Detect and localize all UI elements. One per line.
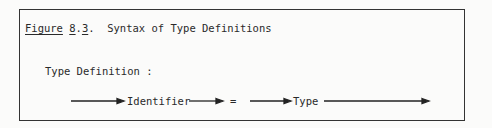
syntax-diagram-row: Identifier = Type: [0, 94, 492, 108]
caption-title: Syntax of Type Definitions: [95, 22, 272, 34]
nonterminal-identifier: Identifier: [127, 94, 190, 108]
nonterminal-type: Type: [293, 94, 318, 108]
terminal-equals: =: [230, 94, 236, 108]
caption-label: Figure: [25, 22, 63, 34]
right-arrow-icon: [0, 94, 492, 108]
figure-caption: Figure 8.3. Syntax of Type Definitions: [25, 22, 272, 34]
rule-name: Type Definition :: [45, 65, 152, 77]
